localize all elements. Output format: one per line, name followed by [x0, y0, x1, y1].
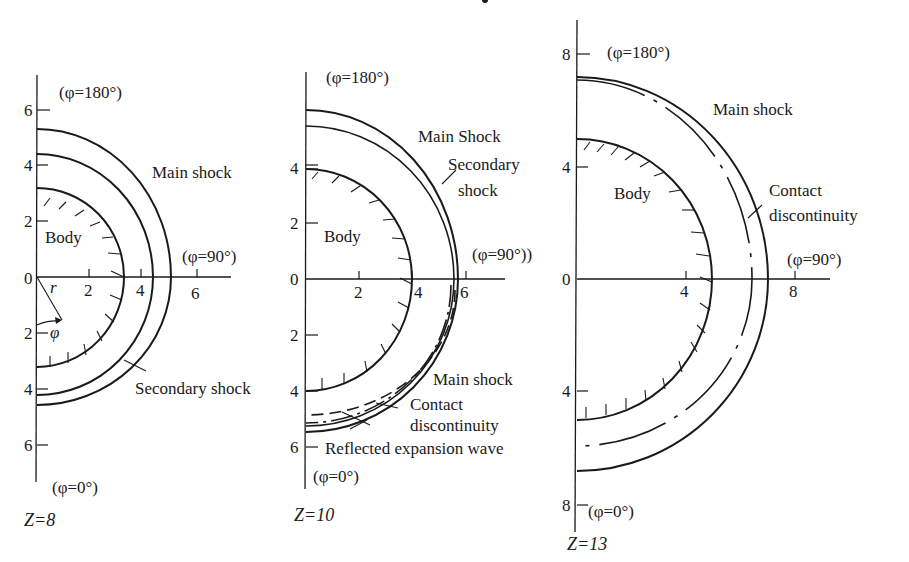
body-label: Body: [614, 184, 651, 203]
radius-label: r: [50, 278, 57, 297]
y-tick-label: 4: [290, 159, 299, 178]
contact-discontinuity-label: Contact: [410, 395, 463, 414]
contact-discontinuity-curve: [577, 80, 752, 446]
reflected-expansion-wave-label: Reflected expansion wave: [325, 439, 503, 458]
y-tick-label: 4: [24, 156, 33, 175]
main-shock-label-lower: Main shock: [433, 370, 513, 389]
x-tick-label: 2: [354, 283, 363, 302]
phi-0-label: (φ=0°): [588, 502, 634, 521]
phi-0-label: (φ=0°): [52, 478, 98, 497]
body-hatching: [312, 172, 412, 389]
station-label-z13: Z=13: [567, 534, 607, 554]
secondary-shock-label: Secondary: [448, 155, 520, 174]
station-label-z8: Z=8: [24, 510, 55, 530]
y-tick-label: 6: [24, 436, 33, 455]
shock-structure-figure: 6 4 2 0 2 4 6 2 4 6 r φ (φ=180°) (φ=90°)…: [0, 0, 909, 562]
station-label-z10: Z=10: [294, 505, 334, 525]
y-tick-label: 6: [290, 438, 299, 457]
x-tick-label: 4: [414, 283, 423, 302]
panel-z13: 8 4 0 4 8 4 8 (φ=180°) (φ=90°) (φ=0°) Ma…: [562, 20, 858, 554]
x-tick-label: 4: [680, 282, 689, 301]
phi-180-label: (φ=180°): [607, 43, 670, 62]
y-axis: [305, 72, 306, 489]
y-tick-label: 2: [24, 212, 33, 231]
y-tick-label: 8: [562, 496, 571, 515]
secondary-shock-curve: [306, 126, 454, 279]
x-tick-label: 2: [84, 281, 93, 300]
y-tick-label: 4: [562, 158, 571, 177]
secondary-shock-label-line2: shock: [458, 181, 498, 200]
y-tick-label: 8: [562, 45, 571, 64]
x-tick-label: 6: [191, 284, 200, 303]
main-shock-label-upper: Main Shock: [418, 127, 501, 146]
panel-z8: 6 4 2 0 2 4 6 2 4 6 r φ (φ=180°) (φ=90°)…: [24, 75, 251, 530]
phi-90-label: (φ=90°): [787, 250, 842, 269]
x-tick-label: 4: [136, 281, 145, 300]
phi-90-label: (φ=90°): [182, 247, 237, 266]
secondary-shock-label: Secondary shock: [135, 379, 251, 398]
y-tick-label: 4: [24, 380, 33, 399]
y-tick-label: 2: [24, 324, 33, 343]
y-tick-label: 4: [290, 382, 299, 401]
y-axis: [575, 20, 577, 532]
y-axis: [36, 75, 37, 482]
main-shock-label: Main shock: [713, 100, 793, 119]
x-tick-label: 6: [460, 283, 469, 302]
contact-discontinuity-label-line2: discontinuity: [410, 416, 499, 435]
y-tick-label: 0: [562, 270, 571, 289]
phi-180-label: (φ=180°): [326, 68, 389, 87]
phi-90-label: (φ=90°)): [472, 245, 532, 264]
secondary-shock-leader: [124, 360, 146, 371]
contact-discontinuity-label-line2: discontinuity: [769, 206, 858, 225]
phi-0-label: (φ=0°): [313, 467, 359, 486]
x-tick-label: 8: [789, 282, 798, 301]
y-tick-label: 6: [24, 101, 33, 120]
phi-angle-label: φ: [50, 323, 59, 342]
main-shock-label: Main shock: [152, 163, 232, 182]
cropped-title-fragment: [482, 0, 488, 3]
body-label: Body: [324, 227, 361, 246]
contact-discontinuity-label: Contact: [769, 181, 822, 200]
body-outline: [306, 169, 412, 391]
y-tick-label: 0: [24, 269, 33, 288]
panel-z10: 4 2 0 2 4 6 2 4 6 (φ=180°) (φ=90°)) (φ=0…: [290, 68, 532, 525]
y-tick-label: 2: [290, 326, 299, 345]
phi-180-label: (φ=180°): [59, 83, 122, 102]
y-tick-label: 0: [290, 270, 299, 289]
y-tick-label: 2: [290, 214, 299, 233]
body-label: Body: [45, 228, 82, 247]
y-tick-label: 4: [562, 382, 571, 401]
